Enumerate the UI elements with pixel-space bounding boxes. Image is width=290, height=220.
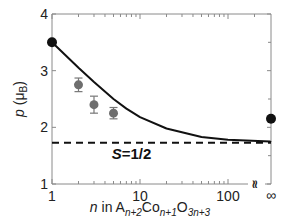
- y-tick-label: 4: [40, 6, 48, 22]
- x-tick-label-infinity: ∞: [266, 187, 276, 203]
- model-curve: [52, 42, 271, 142]
- plot-area: [47, 37, 276, 142]
- axis-break-icon: ≈: [248, 179, 262, 189]
- x-tick-label: 100: [216, 188, 240, 204]
- data-point-gray: [109, 109, 118, 118]
- axes: [52, 14, 271, 184]
- data-point-gray: [89, 100, 98, 109]
- y-tick-label: 3: [40, 63, 48, 79]
- data-point-black: [47, 37, 57, 47]
- data-point-gray: [74, 80, 83, 89]
- y-tick-label: 1: [40, 176, 48, 192]
- annotation-s-half: S=1/2: [112, 145, 152, 162]
- data-point-black: [266, 114, 276, 124]
- y-axis-title: p (μB): [11, 81, 29, 118]
- x-axis-title: n in An+2Con+1O3n+3: [90, 199, 211, 218]
- chart: 1234110100∞≈S=1/2p (μB)n in An+2Con+1O3n…: [0, 0, 290, 220]
- y-tick-label: 2: [40, 119, 48, 135]
- x-tick-label: 1: [48, 188, 56, 204]
